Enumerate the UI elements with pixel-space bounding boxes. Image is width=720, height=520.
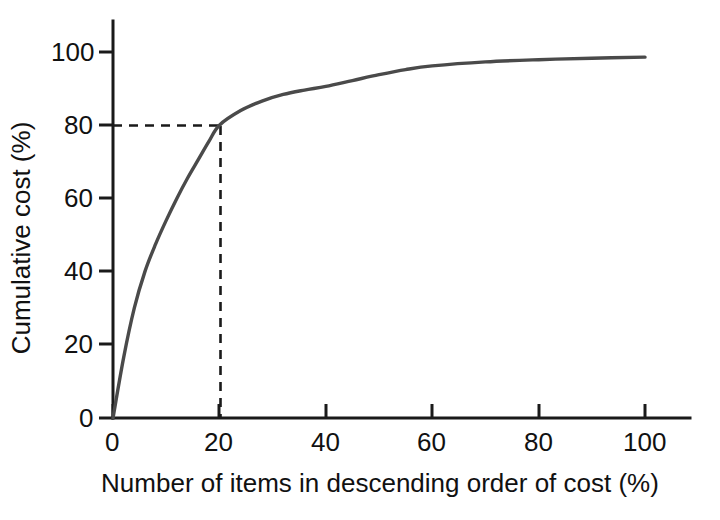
x-tick-label-100: 100	[623, 429, 666, 455]
x-tick-label-80: 80	[524, 429, 553, 455]
axes-group	[113, 21, 690, 418]
x-tick-label-60: 60	[417, 429, 446, 455]
pareto-chart-figure: Cumulative cost (%) Number of items in d…	[0, 0, 720, 520]
y-tick-label-60: 60	[64, 185, 93, 211]
x-tick-label-20: 20	[204, 429, 233, 455]
cumulative-cost-curve	[113, 57, 645, 418]
x-tick-marks	[113, 404, 645, 418]
y-tick-label-0: 0	[79, 405, 93, 431]
y-tick-label-100: 100	[51, 39, 94, 65]
y-tick-label-40: 40	[64, 258, 93, 284]
y-tick-marks	[99, 52, 113, 418]
eighty-twenty-guide-group	[113, 126, 221, 419]
x-axis-title: Number of items in descending order of c…	[101, 468, 659, 498]
y-axis-title: Cumulative cost (%)	[6, 122, 36, 355]
x-tick-label-40: 40	[311, 429, 340, 455]
y-tick-label-20: 20	[64, 331, 93, 357]
y-tick-label-80: 80	[64, 112, 93, 138]
x-tick-label-0: 0	[105, 429, 119, 455]
